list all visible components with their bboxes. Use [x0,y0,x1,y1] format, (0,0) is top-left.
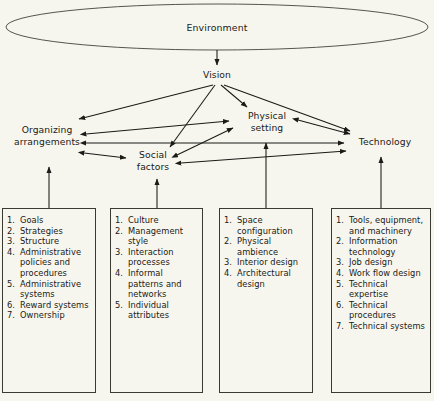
list-item: Space configuration [224,215,309,236]
list-item: Tools, equipment, and machinery [336,215,427,236]
social-factors-box: CultureManagement styleInteraction proce… [110,208,203,393]
technology-list: Tools, equipment, and machineryInformati… [336,215,427,332]
list-item: Reward systems [7,300,92,311]
list-item: Individual attributes [115,300,199,321]
node-organizing-arrangements-label: Organizing arrangements [2,124,92,147]
list-item: Physical ambience [224,236,309,257]
technology-box: Tools, equipment, and machineryInformati… [331,208,431,393]
list-item: Informal patterns and networks [115,268,199,300]
organizing-arrangements-list: GoalsStrategiesStructureAdministrative p… [7,215,92,321]
node-environment-label: Environment [0,22,434,34]
list-item: Interior design [224,257,309,268]
node-social-factors-label: Social factors [118,149,188,172]
diagram-canvas: Environment Vision Organizing arrangemen… [0,0,434,401]
node-vision-label: Vision [167,69,267,81]
list-item: Structure [7,236,92,247]
list-item: Interaction processes [115,247,199,268]
arrow-vision-to-organizing [79,85,213,119]
list-item: Architectural design [224,268,309,289]
list-item: Work flow design [336,268,427,279]
list-item: Technical systems [336,321,427,332]
arrow-social-technology [181,151,346,163]
list-item: Culture [115,215,199,226]
arrow-organizing-physical [86,121,229,134]
physical-setting-list: Space configurationPhysical ambienceInte… [224,215,309,289]
social-factors-list: CultureManagement styleInteraction proce… [115,215,199,321]
list-item: Technical expertise [336,279,427,300]
arrow-physical-technology [298,120,350,134]
node-physical-setting-label: Physical setting [232,110,302,133]
list-item: Ownership [7,310,92,321]
list-item: Goals [7,215,92,226]
list-item: Job design [336,257,427,268]
organizing-arrangements-box: GoalsStrategiesStructureAdministrative p… [2,208,96,393]
list-item: Management style [115,226,199,247]
list-item: Technical procedures [336,300,427,321]
list-item: Administrative policies and procedures [7,247,92,279]
list-item: Administrative systems [7,279,92,300]
list-item: Information technology [336,236,427,257]
node-technology-label: Technology [340,136,430,148]
physical-setting-box: Space configurationPhysical ambienceInte… [219,208,313,393]
list-item: Strategies [7,226,92,237]
